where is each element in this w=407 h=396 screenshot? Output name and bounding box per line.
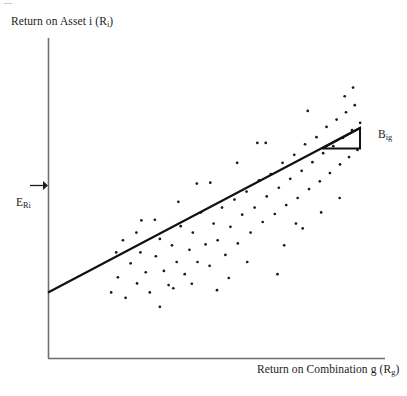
scatter-point xyxy=(153,218,156,221)
expected-return-arrow xyxy=(30,181,48,190)
scatter-point xyxy=(179,225,182,228)
scatter-point xyxy=(190,282,193,285)
scatter-point xyxy=(311,161,314,164)
scatter-point xyxy=(329,172,332,175)
scatter-point xyxy=(155,255,158,258)
scatter-point xyxy=(208,264,211,267)
scatter-point xyxy=(281,161,284,164)
scatter-point xyxy=(159,238,162,241)
scatter-point xyxy=(171,244,174,247)
scatter-figure: Return on Asset i (Ri) Return on Combina… xyxy=(0,0,407,396)
scatter-point xyxy=(227,277,230,280)
scatter-point xyxy=(348,156,351,159)
scatter-point xyxy=(273,213,276,216)
scatter-point xyxy=(300,169,303,172)
scatter-point xyxy=(140,219,143,222)
scatter-point xyxy=(191,231,194,234)
scatter-point xyxy=(318,180,321,183)
scatter-point xyxy=(283,244,286,247)
scatter-point xyxy=(188,248,191,251)
scatter-point xyxy=(221,206,224,209)
arrow-head-icon xyxy=(43,181,48,190)
scatter-point xyxy=(261,221,264,224)
scatter-point xyxy=(204,243,207,246)
scatter-point xyxy=(144,271,147,274)
scatter-point xyxy=(343,95,346,98)
scatter-point xyxy=(129,262,132,265)
scatter-point xyxy=(124,296,127,299)
scatter-point xyxy=(338,197,341,200)
scatter-point xyxy=(122,239,125,242)
scatter-point xyxy=(285,204,288,207)
scatter-point xyxy=(353,104,356,107)
scatter-point xyxy=(117,276,120,279)
scatter-point xyxy=(339,163,342,166)
scatter-point xyxy=(345,111,348,114)
scatter-point xyxy=(253,206,256,209)
axes xyxy=(48,38,385,359)
scatter-point xyxy=(325,126,328,129)
scatter-point xyxy=(308,188,311,191)
scatter-point xyxy=(183,273,186,276)
scatter-point xyxy=(315,136,318,139)
scatter-point xyxy=(304,143,307,146)
scatter-point xyxy=(289,177,292,180)
scatter-point xyxy=(135,231,138,234)
scatter-point xyxy=(236,242,239,245)
scatter-point xyxy=(246,261,249,264)
scatter-point xyxy=(359,121,362,124)
regression-line xyxy=(49,128,360,292)
beta-triangle xyxy=(322,128,360,149)
scatter-point xyxy=(177,200,180,203)
scatter-point xyxy=(335,118,338,121)
scatter-point xyxy=(148,291,151,294)
scatter-point xyxy=(322,152,325,155)
scatter-point xyxy=(110,291,113,294)
scatter-point xyxy=(332,145,335,148)
scatter-point xyxy=(293,153,296,156)
scatter-point xyxy=(175,261,178,264)
scatter-point xyxy=(216,239,219,242)
scatter-point xyxy=(301,227,304,230)
scatter-point xyxy=(167,284,170,287)
scatter-point xyxy=(136,282,139,285)
scatter-point xyxy=(256,142,259,145)
scatter-point xyxy=(296,197,299,200)
triangle-path xyxy=(322,128,360,149)
scatter-points xyxy=(110,86,362,308)
scatter-point xyxy=(320,211,323,214)
scatter-point xyxy=(245,190,248,193)
scatter-point xyxy=(352,86,355,89)
scatter-point xyxy=(216,289,219,292)
scatter-point xyxy=(172,287,175,290)
scatter-point xyxy=(163,270,166,273)
scatter-point xyxy=(159,305,162,308)
scatter-point xyxy=(233,198,236,201)
scatter-point xyxy=(229,225,232,228)
scatter-point xyxy=(241,213,244,216)
plot-canvas xyxy=(0,0,407,396)
scatter-point xyxy=(209,181,212,184)
scatter-point xyxy=(264,142,267,145)
scatter-point xyxy=(196,261,199,264)
scatter-point xyxy=(276,273,279,276)
scatter-point xyxy=(115,251,118,254)
scatter-point xyxy=(212,222,215,225)
scatter-point xyxy=(265,195,268,198)
scatter-point xyxy=(306,110,309,113)
scatter-point xyxy=(277,186,280,189)
scatter-point xyxy=(249,231,252,234)
scatter-point xyxy=(139,251,142,254)
scatter-point xyxy=(295,222,298,225)
scatter-point xyxy=(195,182,198,185)
scatter-point xyxy=(236,161,239,164)
scatter-point xyxy=(224,254,227,257)
